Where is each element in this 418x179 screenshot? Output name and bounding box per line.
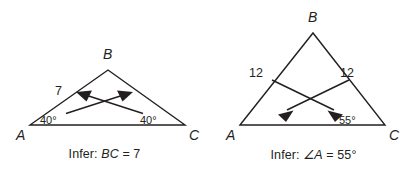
vertex-label-C-right: C: [389, 127, 400, 143]
caption-left: Infer: BC = 7: [0, 147, 209, 161]
arrowhead-down-left-icon: [278, 111, 294, 123]
geometry-figure: A B C 7 40° 40° Infer: BC = 7: [0, 0, 418, 179]
diagram-panel-right: A B C 12 12 55° Infer: ∠A = 55°: [209, 0, 418, 179]
diagram-panel-left: A B C 7 40° 40° Infer: BC = 7: [0, 0, 209, 179]
caption-right: Infer: ∠A = 55°: [209, 147, 418, 162]
vertex-label-A-left: A: [15, 127, 25, 143]
caption-left-prefix: Infer:: [69, 147, 98, 161]
angle-label-C-left: 40°: [140, 114, 157, 126]
caption-right-relation: = 55°: [323, 148, 357, 162]
triangle-diagram-left: A B C 7 40° 40°: [0, 0, 209, 148]
inference-arrow-up-right-left-panel: [66, 91, 133, 114]
triangle-diagram-right: A B C 12 12 55°: [209, 0, 418, 148]
vertex-label-B-left: B: [103, 46, 112, 62]
caption-right-subject: ∠A: [303, 148, 323, 162]
angle-label-A-left: 40°: [40, 114, 57, 126]
vertex-label-C-left: C: [189, 127, 200, 143]
inference-arrow-up-left-left-panel: [76, 91, 143, 114]
vertex-label-B-right: B: [308, 9, 317, 25]
vertex-label-A-right: A: [225, 127, 235, 143]
side-length-label-BC-right: 12: [340, 66, 354, 80]
side-length-label-AB-right: 12: [249, 66, 263, 80]
caption-left-relation: = 7: [119, 147, 141, 161]
caption-left-subject: BC: [101, 147, 119, 161]
caption-right-prefix: Infer:: [271, 148, 300, 162]
side-length-label-AB-left: 7: [55, 84, 62, 98]
